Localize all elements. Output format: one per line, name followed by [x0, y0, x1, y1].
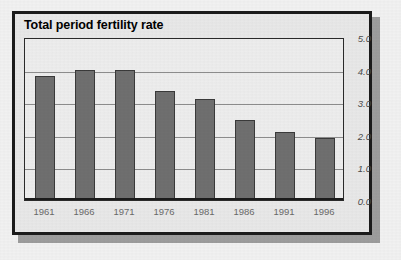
plot-area	[24, 38, 344, 201]
y-axis-tick-label: 2.0	[358, 131, 371, 142]
gridline	[25, 169, 343, 170]
x-axis-baseline	[25, 198, 343, 200]
x-axis-tick-label: 1991	[273, 206, 294, 217]
plot-inner	[25, 39, 343, 200]
x-axis-tick-label: 1966	[73, 206, 94, 217]
bar	[115, 70, 134, 200]
y-axis-tick-label: 0.0	[358, 196, 371, 207]
bar	[35, 76, 54, 200]
y-axis: 5.04.03.02.01.00.0	[347, 38, 371, 201]
x-axis-tick-label: 1981	[193, 206, 214, 217]
y-axis-tick-label: 5.0	[358, 33, 371, 44]
y-axis-tick-label: 3.0	[358, 98, 371, 109]
bar	[235, 120, 254, 200]
x-axis: 19611966197119761981198619911996	[24, 206, 344, 220]
gridline	[25, 104, 343, 105]
bar	[315, 138, 334, 200]
y-axis-tick-label: 1.0	[358, 163, 371, 174]
bar	[275, 132, 294, 200]
chart-figure: Total period fertility rate 5.04.03.02.0…	[12, 11, 372, 235]
bar	[75, 70, 94, 200]
bar	[155, 91, 174, 200]
x-axis-tick-label: 1971	[113, 206, 134, 217]
x-axis-tick-label: 1986	[233, 206, 254, 217]
gridline	[25, 137, 343, 138]
bar	[195, 99, 214, 200]
gridline	[25, 72, 343, 73]
chart-title: Total period fertility rate	[24, 18, 163, 32]
x-axis-tick-label: 1961	[33, 206, 54, 217]
x-axis-tick-label: 1996	[313, 206, 334, 217]
y-axis-tick-label: 4.0	[358, 66, 371, 77]
x-axis-tick-label: 1976	[153, 206, 174, 217]
